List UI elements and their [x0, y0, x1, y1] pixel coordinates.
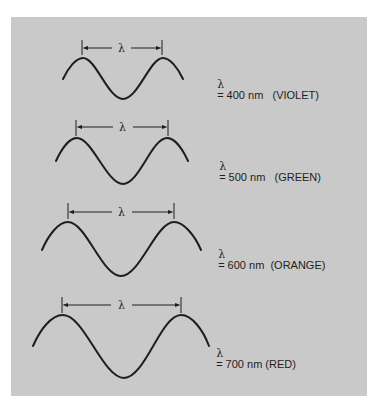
lambda-symbol: λ — [118, 42, 125, 55]
sine-wave-violet — [63, 58, 183, 99]
wavelength-label-red: λ = 700 nm (RED) — [210, 337, 296, 370]
wave-group-orange: λ — [42, 203, 201, 276]
lambda-symbol: λ — [119, 121, 126, 134]
sine-wave-orange — [42, 222, 201, 276]
wavelength-value-green: = 500 nm (GREEN) — [219, 171, 321, 183]
arrowhead-left-icon — [83, 46, 89, 50]
wavelength-label-green: λ = 500 nm (GREEN) — [213, 150, 321, 183]
arrowhead-left-icon — [69, 210, 75, 214]
wavelength-diagram: λ λ λ λ — [0, 0, 370, 406]
arrowhead-right-icon — [175, 303, 181, 307]
wavelength-label-orange: λ = 600 nm (ORANGE) — [212, 238, 325, 271]
wave-group-red: λ — [33, 297, 209, 378]
arrowhead-left-icon — [77, 125, 83, 129]
wave-group-violet: λ — [63, 40, 183, 99]
wavelength-value-red: = 700 nm (RED) — [216, 358, 296, 370]
arrowhead-right-icon — [156, 46, 162, 50]
wavelength-label-violet: λ = 400 nm (VIOLET) — [211, 68, 319, 101]
wavelength-value-orange: = 600 nm (ORANGE) — [218, 259, 325, 271]
arrowhead-right-icon — [168, 210, 174, 214]
sine-wave-red — [33, 315, 209, 378]
arrowhead-right-icon — [162, 125, 168, 129]
wavelength-value-violet: = 400 nm (VIOLET) — [217, 89, 319, 101]
sine-wave-green — [56, 138, 188, 184]
lambda-symbol: λ — [118, 299, 125, 312]
arrowhead-left-icon — [63, 303, 69, 307]
wave-group-green: λ — [56, 120, 188, 184]
lambda-symbol: λ — [118, 206, 125, 219]
